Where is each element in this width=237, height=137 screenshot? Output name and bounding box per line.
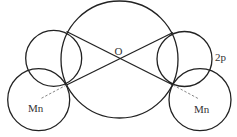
label-2p: 2p <box>215 51 227 63</box>
label-mn-left: Mn <box>28 102 44 114</box>
orbital-overlap-diagram: O 2p Mn Mn <box>0 0 237 137</box>
left-dashed-line <box>40 85 67 99</box>
left-upper-circle <box>26 30 82 86</box>
label-mn-right: Mn <box>194 103 210 115</box>
label-o: O <box>115 45 123 57</box>
right-upper-circle <box>157 32 212 87</box>
left-lower-circle <box>8 69 70 131</box>
right-lower-circle <box>169 69 231 131</box>
